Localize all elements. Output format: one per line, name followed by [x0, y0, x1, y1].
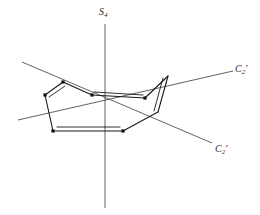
- c2-prime-lower-axis-label: C2′: [215, 144, 227, 154]
- c2-prime-lower-label-sub: 2: [222, 148, 226, 156]
- double-bond-inner-v1-v2: [49, 86, 65, 97]
- vertex-v1: [61, 80, 64, 83]
- s4-axis-label: S4: [99, 7, 108, 17]
- vertex-v3: [51, 129, 54, 132]
- c2-prime-lower-label-main: C: [215, 143, 222, 154]
- c2-prime-upper-axis-label: C2′: [235, 64, 247, 74]
- double-bond-inner-v5-v8: [154, 78, 163, 111]
- s4-label-sub: 4: [104, 11, 108, 19]
- vertex-v4: [121, 129, 124, 132]
- bond-v2-v3: [45, 95, 53, 131]
- vertex-v6: [143, 96, 146, 99]
- diagram-canvas: [0, 0, 260, 215]
- molecule-skeleton: [43, 76, 168, 133]
- bond-v7-v1: [63, 82, 92, 95]
- axis-group: [18, 24, 233, 208]
- vertex-v2: [43, 93, 46, 96]
- c2-prime-upper-label-prime: ′: [245, 63, 247, 74]
- c2-prime-upper-label-main: C: [235, 63, 242, 74]
- bond-v6-v7: [92, 95, 145, 98]
- c2-prime-upper-label-sub: 2: [242, 68, 246, 76]
- vertex-v7: [90, 93, 93, 96]
- c2-prime-lower-label-prime: ′: [225, 143, 227, 154]
- symmetry-diagram: S4 C2′ C2′: [0, 0, 260, 215]
- c2-prime-upper-axis-line: [18, 71, 233, 120]
- bond-v4-v8: [123, 112, 158, 131]
